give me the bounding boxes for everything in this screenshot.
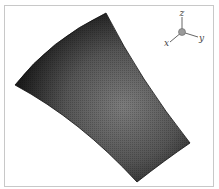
axis-triad-icon: z x y xyxy=(164,8,205,48)
axis-x-label: x xyxy=(164,38,169,48)
axis-y-label: y xyxy=(198,33,205,43)
axis-z-label: z xyxy=(179,8,185,18)
surface-plot: z x y xyxy=(0,0,219,189)
